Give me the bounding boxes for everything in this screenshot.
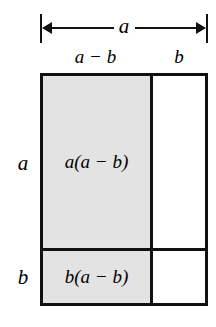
- vertical-divider: [150, 76, 153, 303]
- dimension-line-left-segment: [47, 27, 114, 29]
- cell-label-bottom-left: b(a − b): [43, 265, 150, 289]
- arrowhead-right-icon: [196, 22, 206, 34]
- horizontal-divider: [43, 248, 205, 251]
- dimension-line-right-segment: [135, 27, 201, 29]
- row-caption-upper: a: [10, 150, 36, 176]
- arrowhead-left-icon: [42, 22, 52, 34]
- dimension-label-total-width: a: [112, 12, 136, 40]
- main-rectangle: a(a − b) b(a − b): [40, 73, 208, 306]
- column-caption-left: a − b: [41, 43, 150, 71]
- geometric-diagram: a a − b b a b a(a − b) b(a − b): [0, 0, 216, 327]
- row-caption-lower: b: [10, 264, 36, 290]
- cell-label-top-left: a(a − b): [43, 150, 150, 174]
- column-caption-right: b: [150, 43, 208, 71]
- dimension-tick-right: [206, 14, 208, 43]
